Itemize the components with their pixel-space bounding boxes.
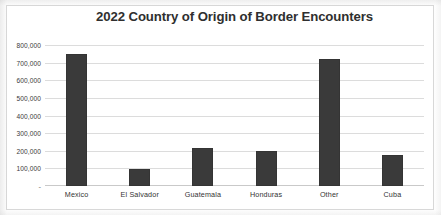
y-tick-label: 200,000	[1, 147, 41, 154]
bar-el-salvador	[129, 169, 150, 186]
y-tick-label: 700,000	[1, 59, 41, 66]
gridline	[45, 168, 424, 169]
x-tick-label: Cuba	[384, 190, 402, 199]
x-tick-label: Mexico	[65, 190, 89, 199]
x-axis: MexicoEl SalvadorGuatemalaHondurasOtherC…	[45, 190, 424, 204]
x-tick-label: El Salvador	[121, 190, 159, 199]
y-tick-label: 100,000	[1, 165, 41, 172]
chart-title: 2022 Country of Origin of Border Encount…	[45, 9, 424, 24]
x-tick-label: Guatemala	[185, 190, 222, 199]
bar-chart-figure: 2022 Country of Origin of Border Encount…	[0, 0, 441, 215]
gridline	[45, 185, 424, 186]
bar-cuba	[382, 155, 403, 186]
plot-area	[45, 45, 424, 186]
y-tick-label: 800,000	[1, 42, 41, 49]
y-tick-label: 500,000	[1, 94, 41, 101]
bar-honduras	[256, 151, 277, 186]
x-tick-label: Honduras	[250, 190, 282, 199]
y-tick-label: -	[1, 182, 41, 191]
gridline	[45, 63, 424, 64]
gridline	[45, 151, 424, 152]
y-tick-label: 400,000	[1, 112, 41, 119]
gridline	[45, 98, 424, 99]
x-tick-label: Other	[320, 190, 339, 199]
y-tick-label: 600,000	[1, 77, 41, 84]
gridline	[45, 45, 424, 46]
gridline	[45, 80, 424, 81]
bar-other	[319, 59, 340, 186]
bar-mexico	[66, 54, 87, 186]
y-axis: -100,000200,000300,000400,000500,000600,…	[0, 45, 41, 186]
gridline	[45, 116, 424, 117]
bar-guatemala	[192, 148, 213, 186]
y-tick-label: 300,000	[1, 130, 41, 137]
gridline	[45, 133, 424, 134]
